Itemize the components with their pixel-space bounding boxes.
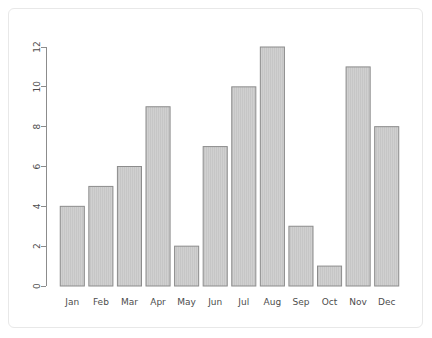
y-axis-tick-label: 12: [32, 41, 42, 52]
bar-aug: Aug: 12: [260, 47, 284, 286]
bar-may: May: 2: [175, 246, 199, 286]
bar-sep: Sep: 3: [289, 226, 313, 286]
bar-chart-svg: 024681012 Jan: 4Feb: 5Mar: 6Apr: 9May: 2…: [0, 0, 432, 338]
y-axis: 024681012: [32, 41, 46, 289]
x-axis-label-jan: Jan: [64, 297, 79, 307]
bar-mar: Mar: 6: [117, 167, 141, 287]
x-axis-label-sep: Sep: [292, 297, 309, 307]
x-axis-category-labels: JanFebMarAprMayJunJulAugSepOctNovDec: [64, 297, 395, 307]
bar-jul: Jul: 10: [232, 87, 256, 286]
x-axis-label-oct: Oct: [322, 297, 338, 307]
figure-canvas: 024681012 Jan: 4Feb: 5Mar: 6Apr: 9May: 2…: [0, 0, 432, 338]
x-axis-label-aug: Aug: [264, 297, 282, 307]
bar-oct: Oct: 1: [318, 266, 342, 286]
bar-jun: Jun: 7: [203, 147, 227, 286]
bar-nov: Nov: 11: [346, 67, 370, 286]
plot-area: 024681012 Jan: 4Feb: 5Mar: 6Apr: 9May: 2…: [0, 0, 432, 338]
x-axis-label-apr: Apr: [150, 297, 166, 307]
x-axis-label-jul: Jul: [237, 297, 249, 307]
x-axis-label-may: May: [177, 297, 196, 307]
x-axis-label-nov: Nov: [349, 297, 367, 307]
x-axis-label-mar: Mar: [121, 297, 138, 307]
y-axis-tick-label: 0: [32, 283, 42, 289]
bar-apr: Apr: 9: [146, 107, 170, 286]
y-axis-tick-label: 8: [32, 124, 42, 130]
bars-group: Jan: 4Feb: 5Mar: 6Apr: 9May: 2Jun: 7Jul:…: [60, 47, 399, 286]
y-axis-tick-label: 2: [32, 243, 42, 249]
bar-jan: Jan: 4: [60, 206, 84, 286]
y-axis-tick-label: 6: [32, 163, 42, 169]
x-axis-label-feb: Feb: [93, 297, 109, 307]
y-axis-tick-label: 4: [32, 203, 42, 209]
x-axis-label-dec: Dec: [378, 297, 395, 307]
x-axis-label-jun: Jun: [207, 297, 222, 307]
bar-feb: Feb: 5: [89, 186, 113, 286]
bar-dec: Dec: 8: [375, 127, 399, 286]
y-axis-tick-label: 10: [32, 81, 42, 93]
